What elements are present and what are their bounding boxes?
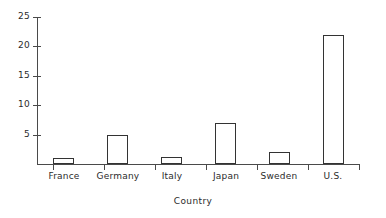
- y-axis-tick-label-5: 5: [4, 130, 30, 139]
- x-axis-category-label-germany: Germany: [91, 171, 145, 181]
- x-axis-tick: [308, 164, 309, 170]
- x-axis-category-label-italy: Italy: [145, 171, 199, 181]
- x-axis-tick: [53, 164, 54, 170]
- y-axis-tick-5: [33, 135, 41, 136]
- x-axis-tick: [155, 164, 156, 170]
- bar-italy: [161, 157, 182, 164]
- bar-us: [323, 35, 344, 164]
- y-axis-tick-20: [33, 46, 41, 47]
- x-axis-category-label-sweden: Sweden: [252, 171, 306, 181]
- bar-sweden: [269, 152, 290, 164]
- x-axis-tick: [359, 164, 360, 170]
- x-axis-tick: [104, 164, 105, 170]
- x-axis-tick: [206, 164, 207, 170]
- x-axis-line: [37, 164, 360, 165]
- bar-chart: 25 20 15 10 5 France Germany Italy Japan…: [0, 0, 386, 218]
- x-axis-title: Country: [0, 196, 386, 206]
- y-axis-tick-15: [33, 76, 41, 77]
- x-axis-category-label-france: France: [37, 171, 91, 181]
- x-axis-tick: [257, 164, 258, 170]
- y-axis-tick-label-15: 15: [4, 71, 30, 80]
- bar-france: [53, 158, 74, 164]
- y-axis-line: [37, 17, 38, 164]
- x-axis-category-label-us: U.S.: [306, 171, 360, 181]
- bar-germany: [107, 135, 128, 164]
- bar-japan: [215, 123, 236, 164]
- y-axis-tick-10: [33, 105, 41, 106]
- x-axis-category-label-japan: Japan: [199, 171, 253, 181]
- y-axis-tick-label-10: 10: [4, 100, 30, 109]
- y-axis-tick-label-25: 25: [4, 12, 30, 21]
- y-axis-tick-25: [33, 17, 41, 18]
- y-axis-tick-label-20: 20: [4, 41, 30, 50]
